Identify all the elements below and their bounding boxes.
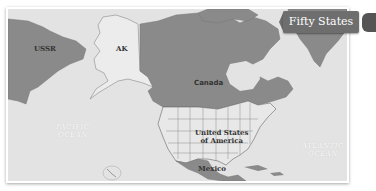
hawaii-circle: [103, 166, 121, 180]
atlantic-line2: OCEAN: [302, 150, 344, 158]
ribbon-fold: [362, 13, 376, 32]
label-mexico: Mexico: [198, 165, 226, 173]
ussr-landmass: [8, 19, 86, 104]
label-alaska: AK: [116, 45, 128, 53]
pacific-line1: PACIFIC: [56, 123, 90, 131]
label-atlantic-ocean: ATLANTIC OCEAN: [302, 142, 344, 158]
label-pacific-ocean: PACIFIC OCEAN: [56, 123, 90, 139]
map-shapes: [8, 9, 347, 181]
caribbean-islands-2: [270, 172, 284, 176]
canada-landmass: [140, 13, 293, 109]
map-card: USSR AK Canada United States of America …: [6, 7, 349, 183]
caribbean-islands: [244, 165, 268, 171]
label-canada: Canada: [194, 79, 223, 87]
label-usa: United States of America: [195, 129, 248, 145]
title-ribbon: Fifty States: [283, 11, 359, 33]
label-usa-line2: of America: [195, 137, 248, 145]
label-ussr: USSR: [34, 45, 56, 53]
pacific-line2: OCEAN: [56, 131, 90, 139]
atlantic-line1: ATLANTIC: [302, 142, 344, 150]
hawaii-islands: [107, 169, 116, 177]
north-america-map[interactable]: USSR AK Canada United States of America …: [8, 9, 347, 181]
